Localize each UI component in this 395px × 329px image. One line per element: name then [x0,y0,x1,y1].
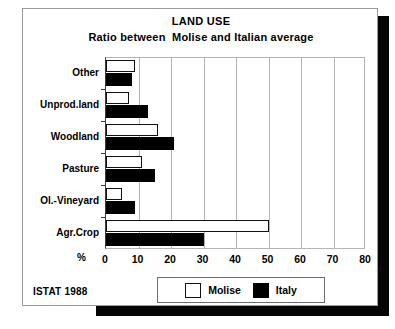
legend-label: Italy [276,284,297,296]
bar-group [106,58,364,90]
x-tick-label-0: 0 [93,253,117,265]
chart-title: LAND USE [23,15,379,27]
bar-molise-unprodland [106,92,129,104]
bar-group [106,122,364,154]
open-square-icon [185,283,201,298]
chart-legend: MoliseItaly [157,277,325,303]
x-tick-label-10: 10 [126,253,150,265]
bar-molise-pasture [106,156,142,168]
x-tick-label-20: 20 [158,253,182,265]
chart-figure: LAND USE Ratio between Molise and Italia… [0,0,395,329]
bar-molise-agrcrop [106,220,269,232]
bar-italy-olvineyard [106,201,135,214]
bar-italy-agrcrop [106,233,204,246]
bar-italy-pasture [106,169,155,182]
x-axis-unit-label: % [77,252,86,263]
y-axis-tick [101,89,106,90]
bar-group [106,154,364,186]
figure-shadow-bottom [96,305,389,316]
category-label-other: Other [23,67,99,78]
source-label: ISTAT 1988 [33,286,87,297]
y-axis-tick [101,121,106,122]
legend-label: Molise [208,284,241,296]
bar-italy-other [106,73,132,86]
bar-italy-woodland [106,137,174,150]
category-label-olvineyard: Ol.-Vineyard [23,195,99,206]
chart-card: LAND USE Ratio between Molise and Italia… [22,8,378,306]
legend-item-italy[interactable]: Italy [253,283,297,298]
category-label-agrcrop: Agr.Crop [23,227,99,238]
category-label-unprodland: Unprod.land [23,99,99,110]
bar-group [106,90,364,122]
bar-molise-other [106,60,135,72]
x-tick-label-60: 60 [288,253,312,265]
category-label-pasture: Pasture [23,163,99,174]
y-axis-tick [101,185,106,186]
x-tick-label-70: 70 [321,253,345,265]
figure-shadow-right [378,16,389,316]
y-axis-tick [101,217,106,218]
bar-molise-olvineyard [106,188,122,200]
y-axis-tick [101,153,106,154]
bar-italy-unprodland [106,105,148,118]
x-tick-label-40: 40 [223,253,247,265]
bar-molise-woodland [106,124,158,136]
x-tick-label-50: 50 [256,253,280,265]
bar-group [106,218,364,250]
category-label-woodland: Woodland [23,131,99,142]
plot-area [105,57,365,249]
bar-group [106,186,364,218]
legend-item-molise[interactable]: Molise [185,283,241,298]
filled-square-icon [253,283,269,298]
chart-subtitle: Ratio between Molise and Italian average [23,31,379,43]
x-tick-label-30: 30 [191,253,215,265]
x-tick-label-80: 80 [353,253,377,265]
